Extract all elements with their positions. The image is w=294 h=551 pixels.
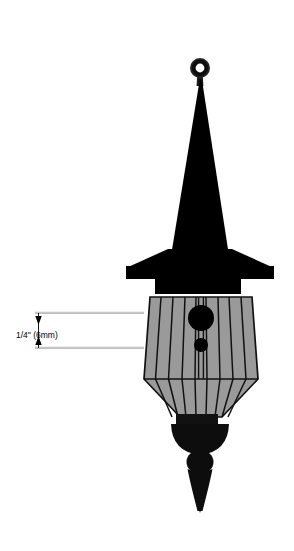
spire-group — [126, 78, 274, 294]
finial-technical-illustration: 1/4" (6mm) — [0, 0, 294, 551]
dimension-annotation-group: 1/4" (6mm) — [16, 312, 144, 348]
spire-cone — [171, 78, 230, 259]
dimension-arrow-down-icon — [35, 316, 41, 325]
eyelet-ring-hole — [196, 64, 205, 73]
neck-collar — [155, 278, 241, 294]
lantern-vent-small — [194, 338, 208, 352]
spire-base-band — [126, 266, 274, 279]
bottom-finial-group — [171, 424, 229, 513]
lantern-group — [144, 297, 258, 426]
drawing-canvas: 1/4" (6mm) — [0, 0, 294, 551]
dimension-label: 1/4" (6mm) — [16, 330, 58, 340]
bottom-finial-bead — [187, 450, 214, 474]
lantern-vent-large — [188, 305, 214, 331]
bottom-finial-spike — [188, 469, 213, 511]
